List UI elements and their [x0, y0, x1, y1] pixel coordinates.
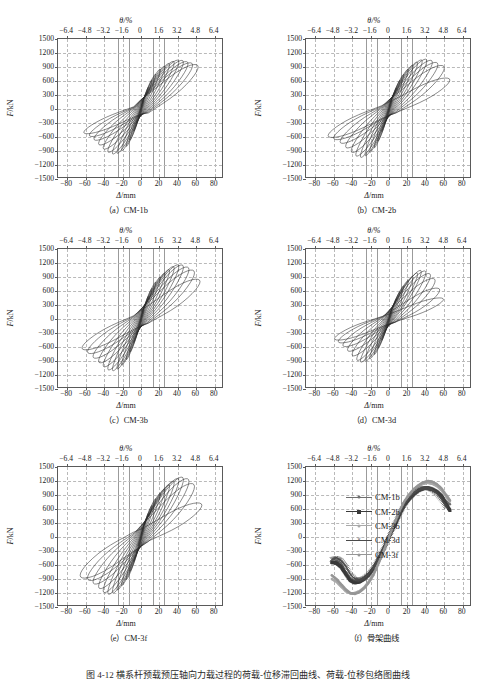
plot-area-e [57, 466, 223, 606]
y-tick-label: −1200 [250, 588, 302, 597]
legend-marker-cm-3b [346, 521, 372, 531]
theta-tick-label: −6.4 [59, 454, 73, 463]
theta-tick-label: −6.4 [59, 26, 73, 35]
theta-tick-label: −6.4 [307, 236, 321, 245]
y-tick-label: −600 [2, 560, 54, 569]
x-tick-label: 20 [155, 389, 163, 398]
theta-tick-label: 4.8 [439, 236, 449, 245]
legend-marker-cm-1b [346, 492, 372, 502]
y-tick-label: −1200 [2, 370, 54, 379]
x-axis-title: Δ/mm [250, 619, 496, 628]
y-tick-label: 1200 [250, 48, 302, 57]
theta-tick-label: −1.6 [115, 26, 129, 35]
y-tick-label: −900 [250, 574, 302, 583]
y-tick-label: −1500 [250, 384, 302, 393]
theta-tick-label: 6.4 [209, 454, 219, 463]
y-tick-label: 1200 [2, 258, 54, 267]
panel-e: θ/%−6.4−4.8−3.2−1.601.63.24.86.4−80−60−4… [2, 442, 250, 652]
x-tick-label: −20 [364, 607, 376, 616]
y-tick-label: −900 [250, 356, 302, 365]
x-tick-label: 40 [173, 607, 181, 616]
x-tick-label: −60 [79, 389, 91, 398]
x-tick-label: 0 [386, 607, 390, 616]
x-tick-label: 60 [192, 179, 200, 188]
x-tick-label: 80 [458, 179, 466, 188]
y-tick-label: −900 [2, 356, 54, 365]
y-tick-label: −1500 [250, 602, 302, 611]
theta-axis-title: θ/% [250, 444, 496, 453]
theta-tick-label: 1.6 [154, 454, 164, 463]
y-tick-label: −900 [250, 146, 302, 155]
x-tick-label: −60 [79, 607, 91, 616]
panel-inner-d: θ/%−6.4−4.8−3.2−1.601.63.24.86.4−80−60−4… [250, 224, 496, 434]
legend: CM-1bCM-2bCM-3b×CM-3dCM-3f [346, 490, 400, 562]
plot-area-b [305, 38, 471, 178]
legend-item-cm-3b: CM-3b [346, 519, 400, 533]
panel-caption-b: （b）CM-2b [250, 203, 496, 215]
panel-caption-a: （a）CM-1b [2, 203, 250, 215]
theta-tick-label: 0 [138, 236, 142, 245]
theta-tick-label: −3.2 [344, 26, 358, 35]
x-tick-label: −60 [327, 179, 339, 188]
panel-inner-c: θ/%−6.4−4.8−3.2−1.601.63.24.86.4−80−60−4… [2, 224, 250, 434]
legend-marker-cm-3f [346, 550, 372, 560]
theta-tick-label: −4.8 [326, 454, 340, 463]
y-tick-mark [55, 179, 58, 180]
y-tick-label: 1200 [250, 476, 302, 485]
legend-label: CM-3b [375, 521, 400, 531]
chart-data-e [58, 467, 224, 607]
y-tick-label: 600 [2, 76, 54, 85]
y-tick-mark [303, 607, 306, 608]
theta-tick-label: 3.2 [420, 236, 430, 245]
y-tick-label: −300 [2, 118, 54, 127]
theta-tick-label: 4.8 [439, 26, 449, 35]
x-tick-label: −80 [308, 179, 320, 188]
x-tick-label: 0 [386, 179, 390, 188]
legend-item-cm-3f: CM-3f [346, 548, 400, 562]
y-tick-mark [55, 607, 58, 608]
figure-container: θ/%−6.4−4.8−3.2−1.601.63.24.86.4−80−60−4… [0, 0, 496, 685]
x-tick-label: −20 [116, 389, 128, 398]
theta-tick-label: −3.2 [96, 26, 110, 35]
panel-caption-d: （d）CM-3d [250, 413, 496, 425]
x-tick-label: −40 [97, 607, 109, 616]
panel-d: θ/%−6.4−4.8−3.2−1.601.63.24.86.4−80−60−4… [250, 224, 496, 434]
y-tick-label: −600 [2, 342, 54, 351]
y-tick-label: −1200 [2, 160, 54, 169]
theta-tick-label: 4.8 [439, 454, 449, 463]
legend-label: CM-2b [375, 507, 400, 517]
x-tick-label: −40 [97, 179, 109, 188]
x-tick-label: 60 [440, 389, 448, 398]
theta-tick-label: −3.2 [96, 454, 110, 463]
x-tick-label: 80 [210, 389, 218, 398]
theta-tick-label: 6.4 [209, 26, 219, 35]
y-tick-label: −900 [2, 574, 54, 583]
theta-tick-label: 0 [138, 26, 142, 35]
theta-tick-label: −6.4 [307, 26, 321, 35]
y-tick-label: −600 [250, 132, 302, 141]
y-tick-label: −1500 [2, 384, 54, 393]
theta-tick-label: −1.6 [363, 26, 377, 35]
y-tick-label: 600 [2, 504, 54, 513]
theta-axis-title: θ/% [2, 226, 250, 235]
theta-tick-label: −6.4 [307, 454, 321, 463]
x-tick-label: −40 [345, 179, 357, 188]
y-tick-label: 300 [2, 518, 54, 527]
panel-caption-e: （e）CM-3f [2, 631, 250, 643]
x-tick-label: 40 [173, 179, 181, 188]
panel-f: θ/%−6.4−4.8−3.2−1.601.63.24.86.4−80−60−4… [250, 442, 496, 652]
y-tick-label: 1500 [2, 244, 54, 253]
x-tick-label: 80 [458, 607, 466, 616]
x-tick-label: 80 [458, 389, 466, 398]
y-tick-label: 600 [250, 76, 302, 85]
panel-caption-f: （f）骨架曲线 [250, 631, 496, 643]
theta-tick-label: 1.6 [402, 454, 412, 463]
x-tick-label: 80 [210, 179, 218, 188]
theta-tick-label: −6.4 [59, 236, 73, 245]
x-axis-title: Δ/mm [2, 401, 250, 410]
theta-tick-label: −1.6 [115, 454, 129, 463]
y-tick-label: 1500 [2, 462, 54, 471]
y-tick-label: 1200 [250, 258, 302, 267]
x-tick-label: −40 [345, 607, 357, 616]
y-tick-label: −300 [2, 546, 54, 555]
